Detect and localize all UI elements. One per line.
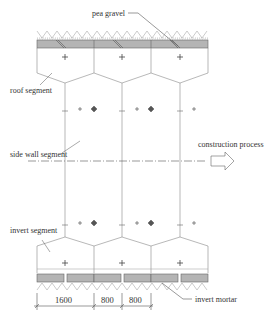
gravel-hatch-stroke: [117, 31, 127, 38]
invert-plus-markers: [62, 260, 183, 266]
invert-mortar-leader: [162, 283, 192, 299]
ground-hatch-stroke: [87, 283, 97, 290]
pea-gravel-label: pea gravel: [92, 9, 126, 18]
ground-hatch-stroke: [127, 283, 137, 290]
dimension-label-3: 800: [129, 295, 142, 305]
side-wall-markers: [62, 106, 196, 226]
construction-direction-arrow-icon: [211, 152, 234, 170]
roof-plus-markers: [62, 54, 183, 60]
gravel-hatch-stroke: [197, 31, 207, 38]
gravel-hatch-stroke: [147, 31, 157, 38]
construction-process-label: construction process: [198, 140, 264, 149]
gravel-hatch-stroke: [97, 31, 107, 38]
wall-grout-hole-icon: [148, 106, 154, 112]
ground-hatch-stroke: [67, 283, 77, 290]
ground-hatch-stroke: [57, 283, 67, 290]
ground-hatch-stroke: [147, 283, 157, 290]
ground-hatch-stroke: [137, 283, 147, 290]
gravel-hatch-stroke: [107, 31, 117, 38]
invert-segment-leader: [42, 240, 50, 252]
ground-hatch-stroke: [177, 283, 187, 290]
gravel-hatch-stroke: [37, 31, 47, 38]
ground-hatch-stroke: [47, 283, 57, 290]
gravel-hatch-stroke: [127, 31, 137, 38]
top-pea-gravel-hatch: [37, 31, 208, 39]
dimension-label-2: 800: [101, 295, 114, 305]
gravel-hatch-stroke: [157, 31, 167, 38]
gravel-hatch-stroke: [137, 31, 147, 38]
ground-hatch-stroke: [117, 283, 127, 290]
ground-hatch-stroke: [97, 283, 107, 290]
invert-ground-hatch: [37, 283, 207, 290]
wall-grout-hole-icon: [91, 106, 97, 112]
wall-grout-hole-icon: [148, 220, 154, 226]
gravel-hatch-stroke: [187, 31, 197, 38]
invert-segment-label: invert segment: [10, 226, 58, 235]
invert-mortar-label: invert mortar: [195, 295, 237, 304]
gravel-hatch-stroke: [77, 31, 87, 38]
tunnel-segment-diagram: pea gravel roof segment side wall segmen…: [0, 0, 269, 316]
ground-hatch-stroke: [37, 283, 47, 290]
ground-hatch-stroke: [107, 283, 117, 290]
dimension-label-1: 1600: [55, 295, 72, 305]
segment-outlines: [37, 48, 208, 273]
gravel-hatch-stroke: [47, 31, 57, 38]
gravel-hatch-stroke: [87, 31, 97, 38]
gravel-hatch-stroke: [177, 31, 187, 38]
invert-slab-band: [37, 274, 208, 282]
ground-hatch-stroke: [167, 283, 177, 290]
roof-segment-label: roof segment: [10, 86, 53, 95]
ground-hatch-stroke: [77, 283, 87, 290]
gravel-hatch-stroke: [167, 31, 177, 38]
ground-hatch-stroke: [157, 283, 167, 290]
wall-grout-hole-icon: [91, 220, 97, 226]
ground-hatch-stroke: [187, 283, 197, 290]
ground-hatch-stroke: [197, 283, 207, 290]
side-wall-segment-label: side wall segment: [10, 150, 68, 159]
gravel-hatch-stroke: [57, 31, 67, 38]
gravel-hatch-stroke: [67, 31, 77, 38]
